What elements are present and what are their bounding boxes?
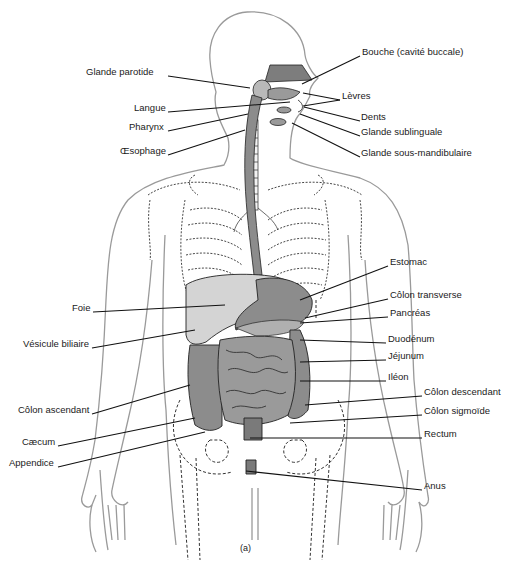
- intestines: [188, 330, 310, 474]
- label-anus: Anus: [424, 480, 446, 491]
- label-glande-parotide: Glande parotide: [86, 66, 154, 77]
- label-pancreas: Pancréas: [390, 307, 430, 318]
- callout-colon-sigmoide: [290, 415, 422, 423]
- label-ileon: Iléon: [388, 371, 409, 382]
- callout-estomac: [300, 266, 388, 300]
- label-colon-sigmoide: Côlon sigmoïde: [424, 405, 490, 416]
- callout-colon-transverse: [305, 299, 388, 318]
- digestive-system-diagram: [0, 0, 512, 562]
- label-langue: Langue: [134, 102, 166, 113]
- label-glande-sous-mandibulaire: Glande sous-mandibulaire: [361, 147, 472, 158]
- label-foie: Foie: [72, 302, 90, 313]
- callout-langue: [168, 102, 290, 112]
- label-pharynx: Pharynx: [129, 121, 164, 132]
- figure-caption: (a): [240, 543, 251, 553]
- label-levres: Lèvres: [342, 90, 371, 101]
- callout-glande-sublinguale: [300, 114, 360, 136]
- label-glande-sublinguale: Glande sublinguale: [361, 126, 442, 137]
- callout-appendice: [58, 432, 205, 467]
- callout-sophage: [168, 130, 245, 155]
- oesophagus: [245, 95, 262, 275]
- callout-colon-descendant: [305, 396, 422, 405]
- label-colon-transverse: Côlon transverse: [390, 289, 462, 300]
- label-bouche-cavite-buccale: Bouche (cavité buccale): [362, 46, 463, 57]
- label-colon-descendant: Côlon descendant: [424, 386, 501, 397]
- label-sophage: Œsophage: [120, 145, 166, 156]
- callout-glande-parotide: [168, 76, 250, 88]
- label-dents: Dents: [361, 111, 386, 122]
- callout-anus: [246, 471, 422, 490]
- callout-vesicule-biliaire: [92, 330, 195, 348]
- callout-pharynx: [168, 114, 248, 131]
- label-rectum: Rectum: [424, 428, 457, 439]
- callout-pancreas: [300, 317, 388, 323]
- callout-jejunum: [300, 360, 386, 362]
- callout-colon-ascendant: [92, 385, 190, 414]
- label-estomac: Estomac: [390, 256, 427, 267]
- callout-levres-2: [303, 100, 340, 106]
- callout-glande-sous-mandibulaire: [292, 123, 360, 157]
- label-jejunum: Jéjunum: [388, 350, 424, 361]
- label-duodenum: Duodénum: [388, 333, 434, 344]
- label-colon-ascendant: Côlon ascendant: [18, 404, 89, 415]
- label-c-cum: Cæcum: [22, 436, 55, 447]
- callout-c-cum: [58, 418, 195, 446]
- label-vesicule-biliaire: Vésicule biliaire: [23, 338, 89, 349]
- head-organs: [253, 65, 312, 126]
- label-appendice: Appendice: [9, 457, 54, 468]
